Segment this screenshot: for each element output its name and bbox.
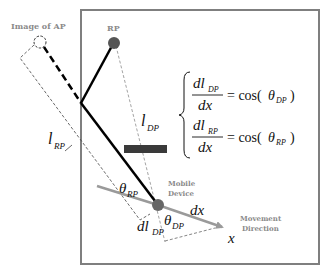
x-axis-label: x [227,230,235,246]
movement-direction-label-1: Movement [240,214,282,223]
svg-text:): ) [290,130,295,146]
equation-system: dl DP dx = cos( θ DP ) dl RP dx = cos( θ… [179,72,295,158]
svg-text:θ: θ [268,88,275,103]
equation-rp: dl RP dx = cos( θ RP ) [192,117,295,155]
svg-text:RP: RP [207,127,218,136]
svg-text:): ) [290,88,295,104]
svg-text:DP: DP [146,123,159,133]
svg-text:dl: dl [137,218,149,234]
l-dp-label: l DP [141,112,159,133]
svg-text:l: l [141,112,146,129]
svg-text:dx: dx [198,139,213,155]
movement-direction-label-2: Direction [242,224,279,233]
svg-text:dl: dl [193,75,205,91]
svg-text:dx: dx [198,97,213,113]
image-ap-dashed-path [44,47,81,103]
obstacle-block [124,145,167,153]
svg-text:RP: RP [126,189,138,199]
svg-text:RP: RP [53,141,65,151]
image-of-ap-label: Image of AP [11,21,66,31]
reflected-path-incoming [81,44,113,103]
mobile-device-node [152,199,164,211]
multipath-geometry-diagram: Image of AP RP Mobile Device Movement Di… [0,0,328,275]
l-dp-dashed-line [116,46,165,242]
svg-text:θ: θ [164,212,172,228]
svg-text:l: l [48,130,53,147]
svg-text:θ: θ [119,180,127,196]
mobile-device-label-2: Device [168,189,195,198]
svg-text:DP: DP [151,227,164,237]
svg-text:= cos(: = cos( [227,130,262,146]
rp-node [108,37,120,49]
svg-text:DP: DP [275,96,287,105]
left-brace [179,72,190,158]
rp-label: RP [107,23,120,33]
svg-text:DP: DP [171,221,184,231]
svg-text:RP: RP [275,138,286,147]
dl-dp-label: dl DP [137,218,164,237]
mobile-device-label-1: Mobile [168,179,196,188]
equation-dp: dl DP dx = cos( θ DP ) [192,75,295,113]
dx-label: dx [190,202,205,218]
image-ap-node [34,36,46,48]
theta-dp-label: θ DP [164,212,184,231]
l-rp-label: l RP [48,130,65,151]
l-rp-tick [65,145,72,151]
svg-text:DP: DP [207,85,219,94]
svg-text:dl: dl [193,117,205,133]
svg-text:= cos(: = cos( [227,88,262,104]
svg-text:θ: θ [268,130,275,145]
